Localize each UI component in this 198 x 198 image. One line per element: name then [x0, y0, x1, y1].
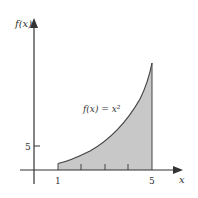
- curve-label: f(x) = x²: [82, 104, 121, 114]
- y-tick-label-5: 5: [25, 142, 31, 152]
- y-axis-label: f(x): [14, 18, 32, 29]
- shaded-area: [58, 63, 152, 170]
- x-axis-arrow-icon: [173, 166, 183, 174]
- diagram-canvas: f(x) x f(x) = x² 5 1 5: [0, 0, 198, 198]
- x-tick-label-5: 5: [149, 176, 155, 186]
- x-axis-label: x: [179, 174, 185, 185]
- x-tick-label-1: 1: [55, 176, 61, 186]
